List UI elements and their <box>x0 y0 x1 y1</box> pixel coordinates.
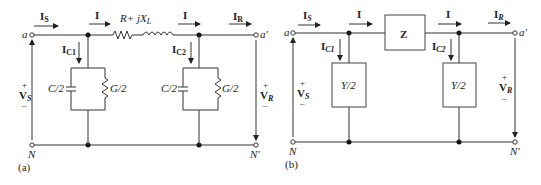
label-is: IS <box>40 10 49 24</box>
terminal-a <box>291 31 295 35</box>
label-ic1: IC1 <box>321 40 335 54</box>
label-ir: IR <box>494 8 504 22</box>
label-i-1: I <box>95 9 99 21</box>
diagram-b: IS I Z I IR IC1 IC2 Y/2 Y/2 a a' N N' + … <box>284 8 528 171</box>
resistor-icon <box>113 31 132 39</box>
label-cond-1: G/2 <box>110 82 127 94</box>
inductor-icon <box>143 32 173 35</box>
label-vs-minus: – <box>21 100 27 110</box>
conductance-resistor-icon <box>102 78 108 98</box>
label-series-impedance: R+ jXL <box>119 12 152 26</box>
terminal-a <box>30 33 34 37</box>
label-i-1: I <box>357 8 361 20</box>
label-cap-1: C/2 <box>48 82 64 94</box>
label-ic2: IC2 <box>432 40 446 54</box>
label-vr-minus: – <box>262 100 268 110</box>
caption-b: (b) <box>285 158 298 171</box>
terminal-a-prime <box>513 31 517 35</box>
label-terminal-a-prime: a' <box>260 28 269 40</box>
label-vs-minus: – <box>299 98 305 108</box>
diagram-a: IS I R+ jXL I IR IC1 IC2 C/2 G/2 C/2 G/2… <box>18 9 274 174</box>
label-terminal-a: a <box>284 26 290 38</box>
label-terminal-n: N <box>288 145 297 157</box>
label-terminal-n-prime: N' <box>509 145 520 157</box>
label-cond-2: G/2 <box>222 82 239 94</box>
label-ic2: IC2 <box>172 43 186 57</box>
label-vr-minus: – <box>501 93 507 103</box>
label-i-2: I <box>183 9 187 21</box>
label-terminal-n: N <box>27 148 36 160</box>
label-cap-2: C/2 <box>161 82 177 94</box>
terminal-n-prime <box>513 140 517 144</box>
label-terminal-a: a <box>22 28 28 40</box>
conductance-resistor-icon <box>215 78 221 98</box>
caption-a: (a) <box>18 161 31 174</box>
terminal-n <box>291 140 295 144</box>
label-is: IS <box>303 9 312 23</box>
label-ir: IR <box>233 10 243 24</box>
terminal-n <box>30 143 34 147</box>
label-i-2: I <box>446 8 450 20</box>
pi-model-circuit-diagrams: IS I R+ jXL I IR IC1 IC2 C/2 G/2 C/2 G/2… <box>0 0 541 185</box>
label-y-half-1: Y/2 <box>341 79 356 91</box>
label-ic1: IC1 <box>62 43 76 57</box>
terminal-n-prime <box>254 143 258 147</box>
label-terminal-n-prime: N' <box>249 148 260 160</box>
label-z: Z <box>400 28 407 40</box>
label-y-half-2: Y/2 <box>451 79 466 91</box>
label-terminal-a-prime: a' <box>519 26 528 38</box>
terminal-a-prime <box>254 33 258 37</box>
